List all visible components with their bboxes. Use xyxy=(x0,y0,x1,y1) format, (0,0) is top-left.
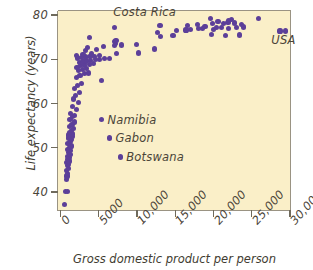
data-point xyxy=(97,53,102,58)
scatter-plot-figure: 8070605040 0500010,00015,00020,00025,000… xyxy=(0,0,313,270)
data-point xyxy=(209,32,214,37)
data-point xyxy=(152,46,157,51)
data-point xyxy=(85,45,90,50)
data-point xyxy=(134,42,139,47)
data-point xyxy=(241,24,246,29)
data-point xyxy=(119,42,124,47)
x-tick-label-0: 0 xyxy=(58,212,73,227)
annotation-label-botswana: Botswana xyxy=(126,150,184,164)
data-point xyxy=(89,51,94,56)
annotation-label-costa-rica: Costa Rica xyxy=(113,5,176,19)
x-axis-title: Gross domestic product per person xyxy=(58,252,291,266)
data-point xyxy=(76,100,81,105)
data-point xyxy=(157,23,162,28)
data-point xyxy=(170,33,175,38)
plot-area xyxy=(58,11,291,210)
data-point xyxy=(256,16,261,21)
annotation-dot-botswana xyxy=(118,154,123,159)
y-tick-50 xyxy=(51,147,58,148)
data-point xyxy=(68,111,73,116)
data-point xyxy=(74,53,79,58)
data-point xyxy=(62,202,67,207)
y-tick-40 xyxy=(51,191,58,192)
data-point xyxy=(79,81,84,86)
data-point xyxy=(70,104,75,109)
y-tick-70 xyxy=(51,59,58,60)
annotation-label-usa: USA xyxy=(271,33,295,47)
data-point xyxy=(87,35,92,40)
data-point xyxy=(86,70,91,75)
data-point xyxy=(113,38,118,43)
data-point xyxy=(136,50,141,55)
y-tick-80 xyxy=(51,14,58,15)
data-point xyxy=(237,32,242,37)
annotation-dot-gabon xyxy=(107,135,112,140)
data-point xyxy=(101,44,106,49)
y-axis-title: Life expectancy (years) xyxy=(24,8,38,198)
y-tick-60 xyxy=(51,103,58,104)
annotation-label-namibia: Namibia xyxy=(107,113,156,127)
data-point xyxy=(77,90,82,95)
annotation-label-gabon: Gabon xyxy=(115,131,154,145)
data-point xyxy=(114,51,119,56)
data-point xyxy=(215,19,220,24)
data-point xyxy=(65,189,70,194)
y-axis-line xyxy=(57,11,58,211)
